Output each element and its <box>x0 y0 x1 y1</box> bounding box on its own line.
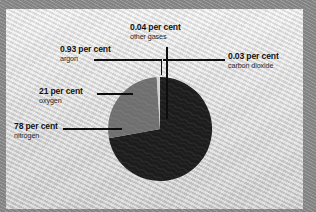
label-oxygen: 21 per cent oxygen <box>39 87 83 105</box>
figure-frame: 0.04 per cent other gases 0.93 per cent … <box>0 0 316 212</box>
pie-texture-overlay <box>108 77 212 181</box>
label-other-gases-name: other gases <box>130 33 181 41</box>
label-nitrogen-name: nitrogen <box>14 132 58 140</box>
label-other-gases-value: 0.04 per cent <box>130 23 181 32</box>
label-argon: 0.93 per cent argon <box>60 45 111 63</box>
label-oxygen-name: oxygen <box>39 97 83 105</box>
label-nitrogen: 78 per cent nitrogen <box>14 122 58 140</box>
label-carbon-dioxide: 0.03 per cent carbon dioxide <box>228 52 279 70</box>
label-nitrogen-value: 78 per cent <box>14 122 58 131</box>
label-oxygen-value: 21 per cent <box>39 87 83 96</box>
label-argon-value: 0.93 per cent <box>60 45 111 54</box>
chart-panel: 0.04 per cent other gases 0.93 per cent … <box>6 9 303 209</box>
label-other-gases: 0.04 per cent other gases <box>130 23 181 41</box>
chart-stage: 0.04 per cent other gases 0.93 per cent … <box>6 9 303 209</box>
label-argon-name: argon <box>60 55 111 63</box>
label-carbon-dioxide-value: 0.03 per cent <box>228 52 279 61</box>
label-carbon-dioxide-name: carbon dioxide <box>228 62 279 70</box>
